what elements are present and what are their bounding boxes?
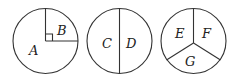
right-angle-marker [46,34,53,41]
region-label-f: F [201,26,212,41]
circle-2: C D [87,9,152,74]
region-label-a: A [28,43,38,58]
radius-lower-right [194,43,221,60]
region-label-d: D [125,36,137,51]
region-label-g: G [185,54,195,69]
region-label-e: E [174,26,185,41]
region-label-c: C [102,36,112,51]
circle-3: E F G [161,9,226,74]
region-label-b: B [56,23,67,38]
circle-1: A B [13,9,78,74]
circles-diagram: A B C D E F G [0,0,237,81]
